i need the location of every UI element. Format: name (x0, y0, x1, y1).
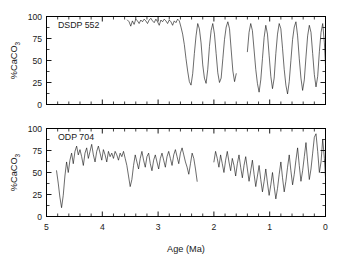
x-ticklabel-0: 0 (323, 222, 328, 232)
svg-text:%CaCO3: %CaCO3 (9, 153, 21, 191)
caco3-timeseries-figure: 0 25 50 75 100 %CaCO3 DSDP 552 (0, 0, 339, 259)
data-series-dsdp-552-segment-2 (247, 22, 325, 94)
y-axis-ticklabels-bottom: 0 25 50 75 100 (28, 124, 43, 222)
figure-container: 0 25 50 75 100 %CaCO3 DSDP 552 (0, 0, 339, 259)
y-ticklabel-100: 100 (28, 124, 43, 134)
y-axis-title-top: %CaCO3 (9, 41, 21, 79)
x-ticklabel-5: 5 (44, 222, 49, 232)
y-axis-ticks-bottom (47, 129, 326, 217)
x-axis-ticks-bottom (47, 129, 326, 217)
y-ticklabel-25: 25 (32, 190, 42, 200)
y-axis-title-main: %CaCO (9, 157, 19, 191)
y-axis-title-main: %CaCO (9, 45, 19, 79)
panel-label-dsdp-552: DSDP 552 (58, 20, 100, 30)
svg-text:%CaCO3: %CaCO3 (9, 41, 21, 79)
y-ticklabel-50: 50 (32, 56, 42, 66)
data-series-odp-704-segment-1 (57, 144, 198, 207)
data-series-odp-704-segment-2 (214, 134, 326, 199)
y-ticklabel-50: 50 (32, 168, 42, 178)
x-axis-title: Age (Ma) (167, 244, 205, 254)
y-axis-title-subscript: 3 (14, 153, 21, 157)
x-ticklabel-3: 3 (156, 222, 161, 232)
y-axis-ticklabels-top: 0 25 50 75 100 (28, 12, 43, 110)
y-axis-title-subscript: 3 (14, 41, 21, 45)
panel-dsdp-552: 0 25 50 75 100 %CaCO3 DSDP 552 (9, 12, 326, 110)
plot-frame-bottom (47, 129, 326, 217)
y-axis-title-bottom: %CaCO3 (9, 153, 21, 191)
panel-label-odp-704: ODP 704 (58, 132, 94, 142)
y-ticklabel-75: 75 (32, 34, 42, 44)
x-ticklabel-2: 2 (212, 222, 217, 232)
y-ticklabel-75: 75 (32, 146, 42, 156)
panel-odp-704: 0 25 50 75 100 %CaCO3 ODP 704 (9, 124, 326, 222)
x-axis-ticklabels: 543210 (44, 222, 328, 232)
x-ticklabel-1: 1 (267, 222, 272, 232)
y-ticklabel-0: 0 (37, 100, 42, 110)
x-ticklabel-4: 4 (100, 222, 105, 232)
y-ticklabel-0: 0 (37, 212, 42, 222)
y-ticklabel-100: 100 (28, 12, 43, 22)
data-series-dsdp-552-segment-1 (127, 18, 236, 85)
y-ticklabel-25: 25 (32, 78, 42, 88)
